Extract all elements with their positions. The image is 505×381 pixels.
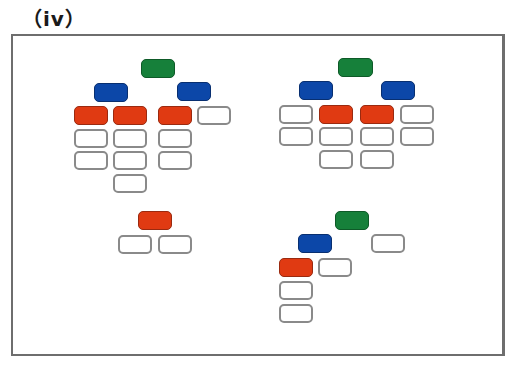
node-green — [338, 58, 373, 77]
node-white — [197, 106, 231, 125]
node-white — [113, 151, 147, 170]
node-red — [158, 106, 192, 125]
node-white — [279, 127, 313, 146]
node-white — [158, 129, 192, 148]
node-white — [400, 127, 434, 146]
node-red — [319, 105, 353, 124]
node-white — [279, 304, 313, 323]
diagram-frame — [11, 34, 505, 356]
node-blue — [298, 234, 332, 253]
node-red — [113, 106, 147, 125]
node-white — [113, 129, 147, 148]
node-white — [360, 150, 394, 169]
node-white — [158, 151, 192, 170]
node-red — [138, 211, 172, 230]
node-white — [279, 105, 313, 124]
figure-label: （iv） — [22, 3, 86, 32]
node-white — [360, 127, 394, 146]
node-white — [371, 234, 405, 253]
node-blue — [381, 81, 415, 100]
node-red — [360, 105, 394, 124]
node-white — [158, 235, 192, 254]
node-white — [118, 235, 152, 254]
node-white — [113, 174, 147, 193]
node-white — [319, 127, 353, 146]
node-white — [318, 258, 352, 277]
node-white — [319, 150, 353, 169]
node-blue — [177, 82, 211, 101]
node-white — [279, 281, 313, 300]
node-white — [400, 105, 434, 124]
node-red — [279, 258, 313, 277]
node-blue — [94, 83, 128, 102]
node-green — [335, 211, 369, 230]
node-blue — [299, 81, 333, 100]
node-green — [141, 59, 175, 78]
node-white — [74, 151, 108, 170]
node-red — [74, 106, 108, 125]
node-white — [74, 129, 108, 148]
